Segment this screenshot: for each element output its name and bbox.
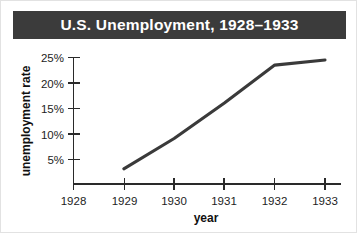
y-tick-label: 15% bbox=[41, 103, 64, 115]
x-tick-label: 1932 bbox=[262, 195, 288, 207]
x-axis-tick-labels: 1928 1929 1930 1931 1932 1933 bbox=[61, 195, 338, 207]
x-tick-label: 1929 bbox=[112, 195, 138, 207]
y-axis-title: unemployment rate bbox=[19, 65, 33, 176]
unemployment-rate-line bbox=[124, 60, 325, 169]
y-tick-label: 20% bbox=[41, 78, 64, 90]
y-axis-tick-labels: 25% 20% 15% 10% 5% bbox=[41, 52, 64, 166]
x-tick-label: 1933 bbox=[312, 195, 338, 207]
x-axis-title: year bbox=[194, 211, 219, 225]
y-tick-label: 5% bbox=[47, 154, 64, 166]
x-tick-label: 1928 bbox=[61, 195, 87, 207]
x-tick-label: 1930 bbox=[161, 195, 187, 207]
y-tick-label: 25% bbox=[41, 52, 64, 64]
x-tick-label: 1931 bbox=[211, 195, 237, 207]
y-tick-label: 10% bbox=[41, 129, 64, 141]
chart-figure: U.S. Unemployment, 1928–1933 unemploymen… bbox=[0, 0, 357, 233]
chart-plot-area: unemployment rate 25% 20% 15% 10% 5% bbox=[1, 1, 357, 233]
